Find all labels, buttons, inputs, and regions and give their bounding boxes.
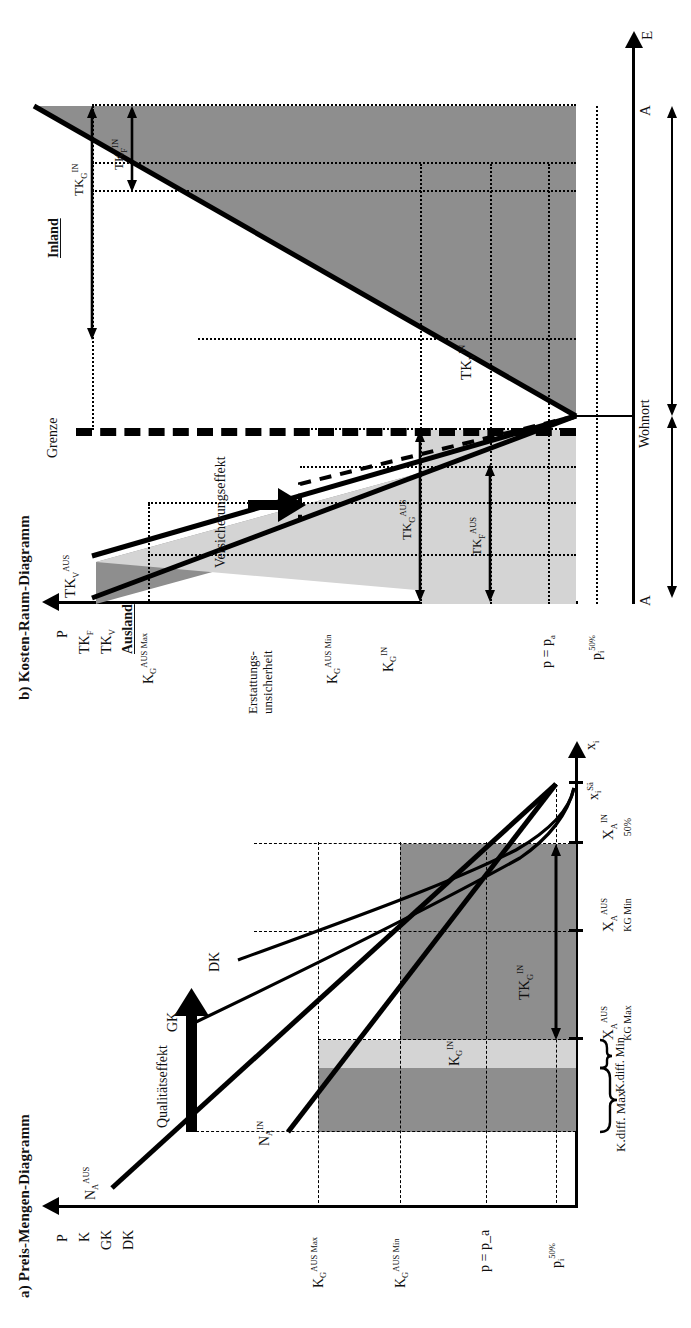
panel-a-xtick-mark-3 bbox=[569, 842, 583, 845]
panel-b-dimlabel-tkf-aus: TKFAUS bbox=[468, 517, 487, 556]
panel-b-ytick-kg-in: KGIN bbox=[380, 647, 398, 672]
panel-b-xtick-wohnort: Wohnort bbox=[638, 399, 653, 448]
panel-b-ytick-p: p = pa bbox=[540, 635, 557, 668]
panel-b-block-arrow-versicherungseffekt bbox=[248, 488, 306, 522]
panel-a-xtick-xa-aus-kgmax: XAAUS KG Max bbox=[600, 986, 635, 1060]
panel-b-xrange-left bbox=[667, 416, 677, 598]
panel-b-dimlabel-tkg-aus: TKGAUS bbox=[398, 500, 417, 541]
panel-a-block-arrow-qualitaetseffekt bbox=[174, 988, 209, 1132]
panel-b-xtick-a-right: A bbox=[638, 105, 654, 116]
panel-a-xtick-mark-2 bbox=[569, 930, 583, 933]
panel-kosten-raum-diagramm: b) Kosten-Raum-Diagramm Ausland Inland G… bbox=[0, 0, 691, 716]
panel-b-ytick-kg-aus-max: KGAUS Max bbox=[140, 633, 158, 684]
panel-b-curve-tkv-aus bbox=[92, 416, 576, 598]
panel-a-curvelabel-na-in: NAIN bbox=[256, 1121, 274, 1146]
panel-a-ytick-p50: pi50% bbox=[548, 1243, 566, 1268]
panel-b-ytick-p50: pi50% bbox=[588, 635, 606, 660]
panel-b-ytick-kg-aus-min: KGAUS Min bbox=[324, 634, 342, 684]
panel-b-curvelabel-tkv-in: TKVIN bbox=[458, 345, 477, 380]
panel-b-curves bbox=[0, 0, 691, 716]
panel-b-xtick-a-left: A bbox=[638, 595, 654, 606]
panel-preis-mengen-diagramm: a) Preis-Mengen-Diagramm P K GK DK xi xi… bbox=[0, 718, 691, 1328]
panel-a-xtick-mark-1 bbox=[569, 1038, 583, 1041]
panel-a-ytick-p: p = p_a bbox=[478, 1230, 493, 1272]
panel-a-arealabel-tkg-in: TKGIN bbox=[516, 965, 535, 1000]
panel-a-ytick-kg-aus-min: KGAUS Min bbox=[392, 1238, 410, 1288]
panel-a-curvelabel-na-aus: NAAUS bbox=[82, 1167, 100, 1200]
panel-b-dimlabel-tkf-in: TKFIN bbox=[110, 139, 129, 170]
panel-a-dim-arrow-tkg-in bbox=[551, 844, 561, 1040]
panel-a-xtick-xa-in-50: XAIN 50% bbox=[600, 790, 635, 864]
panel-a-xtick-xa-aus-kgmin: XAAUS KG Min bbox=[600, 878, 635, 952]
panel-b-ytick-erstattungsunsicherheit: Erstattungs- unsicherheit bbox=[246, 650, 275, 714]
panel-b-label-versicherungseffekt: Versicherungseffekt bbox=[214, 456, 229, 568]
panel-b-xrange-right bbox=[667, 106, 677, 416]
panel-b-curve-tkv-aus-inner bbox=[92, 416, 576, 556]
panel-b-dimlabel-tkg-in: TKGIN bbox=[70, 164, 89, 196]
panel-a-bracelabel-kdiff-max: K.diff. Max bbox=[614, 1090, 628, 1152]
panel-a-curvelabel-gk: GK bbox=[166, 1012, 181, 1032]
panel-a-ytick-kg-aus-max: KGAUS Max bbox=[310, 1237, 328, 1288]
panel-a-arealabel-kg-in: KGIN bbox=[446, 1041, 464, 1066]
panel-a-curve-na-aus bbox=[112, 784, 556, 1188]
panel-a-curvelabel-dk: DK bbox=[208, 952, 223, 972]
figure-canvas: a) Preis-Mengen-Diagramm P K GK DK xi xi… bbox=[0, 0, 691, 1328]
panel-a-curves bbox=[0, 718, 691, 1328]
panel-b-curvelabel-tkv-aus: TKVAUS bbox=[62, 555, 81, 598]
panel-a-label-qualitaetseffekt: Qualitätseffekt bbox=[156, 1045, 171, 1128]
